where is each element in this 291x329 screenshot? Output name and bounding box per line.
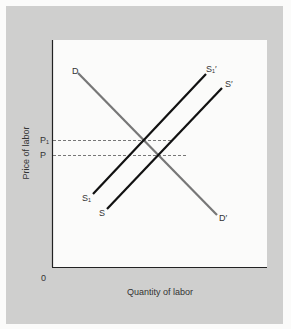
x-axis-title: Quantity of labor xyxy=(127,287,193,297)
supply-demand-chart: D D′ S₁′ S′ S₁ S P₁ P 0 Quantity of labo… xyxy=(0,0,291,329)
y-axis-title: Price of labor xyxy=(21,126,31,179)
label-s1-prime: S₁′ xyxy=(206,64,217,74)
label-d: D xyxy=(72,66,79,76)
origin-label: 0 xyxy=(41,273,46,283)
label-d-prime: D′ xyxy=(219,213,227,223)
label-p1: P₁ xyxy=(40,135,49,145)
label-s1: S₁ xyxy=(82,193,91,203)
label-s-prime: S′ xyxy=(225,79,233,89)
label-p: P xyxy=(40,150,46,160)
label-s: S xyxy=(99,208,105,218)
